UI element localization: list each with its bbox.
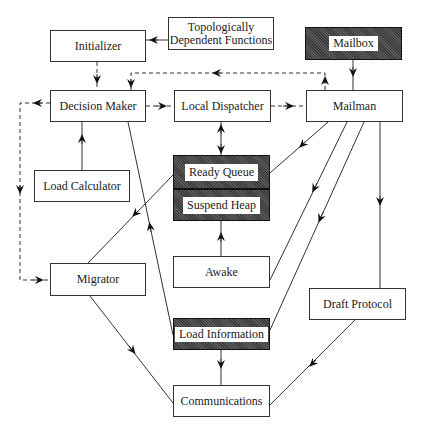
node-label: Load Calculator (43, 180, 121, 193)
node-label: Suspend Heap (183, 197, 260, 214)
node-initializer: Initializer (50, 30, 146, 62)
node-label: Awake (205, 266, 238, 279)
node-topologically-dependent-functions: Topologically Dependent Functions (168, 17, 274, 50)
node-ready-queue-suspend-heap: Ready Queue Suspend Heap (173, 155, 270, 221)
node-label: Mailbox (329, 36, 378, 51)
node-label-line-2: Dependent Functions (170, 34, 272, 47)
node-decision-maker: Decision Maker (50, 90, 146, 122)
node-awake: Awake (173, 256, 270, 288)
node-label: Migrator (77, 273, 120, 286)
edge-mailman-to-decision-maker (131, 73, 325, 90)
node-mailbox: Mailbox (305, 27, 402, 60)
node-ready-queue: Ready Queue (174, 156, 269, 189)
system-architecture-diagram: Initializer Topologically Dependent Func… (0, 0, 423, 431)
edge-mailman-to-awake (270, 122, 347, 280)
node-label: Communications (181, 395, 263, 408)
node-label: Draft Protocol (323, 298, 392, 311)
node-load-calculator: Load Calculator (34, 170, 130, 202)
node-label: Load Information (175, 327, 268, 342)
node-draft-protocol: Draft Protocol (309, 288, 406, 320)
node-label: Decision Maker (60, 100, 137, 113)
node-label: Mailman (333, 100, 376, 113)
node-suspend-heap: Suspend Heap (174, 189, 269, 221)
node-label: Ready Queue (185, 164, 258, 181)
node-mailman: Mailman (306, 90, 403, 122)
node-label: Initializer (75, 40, 122, 53)
node-migrator: Migrator (50, 263, 146, 296)
edge-load-information-to-decision-maker (128, 122, 173, 335)
node-label: Local Dispatcher (181, 100, 263, 113)
node-communications: Communications (173, 385, 270, 417)
node-load-information: Load Information (173, 318, 270, 350)
edge-migrator-to-communications (90, 296, 173, 403)
node-label-line-1: Topologically (188, 21, 254, 34)
edge-draft-protocol-to-communications (270, 320, 355, 405)
node-local-dispatcher: Local Dispatcher (174, 90, 271, 122)
edge-mailman-to-ready-queue (270, 122, 328, 173)
